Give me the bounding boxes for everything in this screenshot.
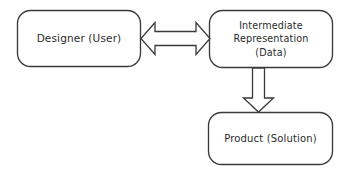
- intermediate-representation-label: Intermediate Representation (Data): [209, 19, 333, 59]
- product-solution-line-1: Product (Solution): [212, 132, 329, 145]
- bidirectional-arrow-shape[interactable]: [141, 23, 210, 55]
- product-solution-label: Product (Solution): [208, 132, 333, 145]
- intermediate-representation-line-3: (Data): [213, 46, 329, 59]
- product-solution-node[interactable]: Product (Solution): [208, 112, 333, 165]
- intermediate-representation-line-2: Representation: [213, 32, 329, 45]
- intermediate-representation-node[interactable]: Intermediate Representation (Data): [209, 10, 333, 68]
- designer-user-label: Designer (User): [17, 32, 141, 45]
- intermediate-representation-line-1: Intermediate: [213, 19, 329, 32]
- diagram-canvas: Designer (User) Intermediate Representat…: [0, 0, 350, 173]
- designer-user-line-1: Designer (User): [21, 32, 137, 45]
- designer-user-node[interactable]: Designer (User): [17, 10, 141, 67]
- down-arrow-shape[interactable]: [244, 68, 274, 112]
